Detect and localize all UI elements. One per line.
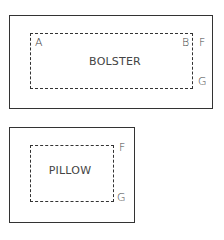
bolster-label-a: A <box>35 37 43 48</box>
bolster-label-f: F <box>199 37 205 48</box>
pillow-title: PILLOW <box>45 165 95 176</box>
bolster-label-g: G <box>198 76 207 87</box>
pillow-label-f: F <box>119 142 125 153</box>
pillow-label-g: G <box>117 192 126 203</box>
bolster-label-b: B <box>182 37 189 48</box>
bolster-title: BOLSTER <box>80 56 150 67</box>
